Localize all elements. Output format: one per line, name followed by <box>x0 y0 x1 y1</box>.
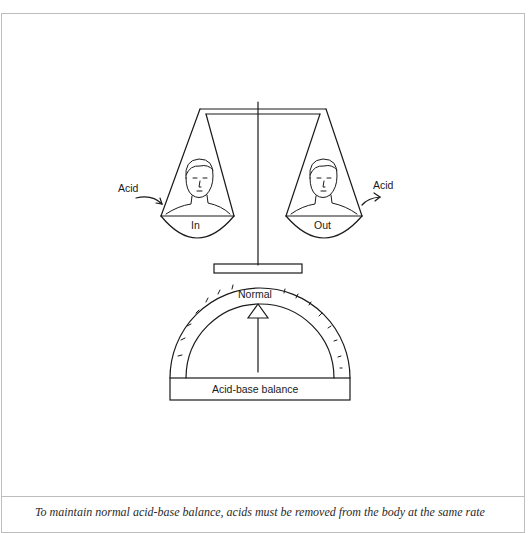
scale-beam <box>200 109 326 114</box>
gauge-outer-arc <box>170 288 350 378</box>
acid-out-arrow-icon <box>362 193 380 205</box>
in-pan-label: In <box>191 219 200 231</box>
acid-base-balance-label: Acid-base balance <box>212 383 299 395</box>
acid-in-arrow-icon <box>136 197 162 204</box>
normal-label: Normal <box>238 288 272 300</box>
person-icon-out <box>291 159 357 214</box>
figure-caption: To maintain normal acid-base balance, ac… <box>35 505 515 520</box>
acid-in-label: Acid <box>118 182 139 194</box>
gauge-pointer-icon <box>248 304 268 318</box>
acid-out-label: Acid <box>373 179 394 191</box>
out-pan-label: Out <box>314 219 331 231</box>
